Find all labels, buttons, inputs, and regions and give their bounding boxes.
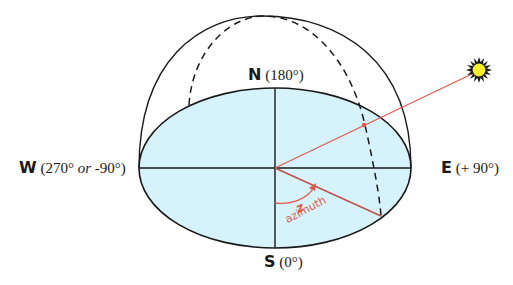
west-or: or — [78, 160, 91, 176]
east-letter: E — [441, 158, 452, 177]
hemisphere-diagram — [0, 0, 513, 285]
west-alt-degrees: -90°) — [95, 160, 126, 176]
west-letter: W — [19, 158, 37, 177]
east-degrees: (+ 90°) — [456, 160, 499, 176]
south-degrees: (0°) — [279, 254, 303, 270]
sun-icon — [466, 57, 492, 83]
west-degrees: (270° — [40, 160, 74, 176]
south-label: S (0°) — [264, 253, 303, 271]
north-letter: N — [248, 65, 261, 84]
north-label: N (180°) — [248, 66, 304, 84]
south-letter: S — [264, 252, 276, 271]
west-label: W (270° or -90°) — [19, 159, 126, 177]
ray-intersection-point — [362, 123, 366, 127]
east-label: E (+ 90°) — [441, 159, 499, 177]
north-degrees: (180°) — [265, 67, 304, 83]
